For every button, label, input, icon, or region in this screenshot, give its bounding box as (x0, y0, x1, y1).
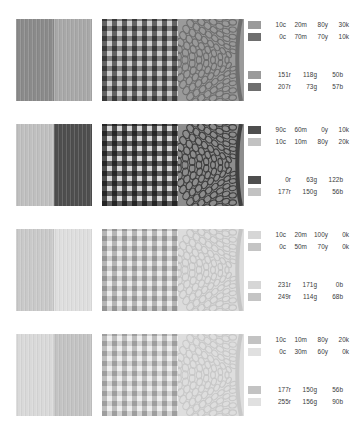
cmyk-m-value: 10m (286, 335, 307, 345)
cmyk-legend: 10c20m100y0k0c50m70y0k (248, 230, 350, 254)
color-chip[interactable] (248, 293, 261, 301)
cmyk-y-value: 0y (307, 125, 328, 135)
stripe-pattern-swatch[interactable] (16, 334, 92, 416)
swatch-sheet: 10c20m80y30k0c70m70y10k 151r118g50b207r7… (0, 0, 352, 446)
color-chip[interactable] (248, 386, 261, 394)
cmyk-y-value: 80y (307, 20, 328, 30)
cmyk-legend-line[interactable]: 10c20m80y30k (248, 20, 350, 31)
color-chip[interactable] (248, 348, 261, 356)
cmyk-legend: 90c60m0y10k10c10m80y20k (248, 125, 350, 149)
cmyk-legend-line[interactable]: 0c70m70y10k (248, 32, 350, 43)
cmyk-y-value: 70y (307, 32, 328, 42)
rgb-legend-line[interactable]: 255r156g90b (248, 397, 350, 408)
cmyk-k-value: 20k (328, 335, 349, 345)
damask-pattern-swatch[interactable] (178, 334, 244, 416)
cmyk-legend: 10c20m80y30k0c70m70y10k (248, 20, 350, 44)
stripe-left-half (16, 124, 54, 206)
cmyk-legend-line[interactable]: 0c50m70y0k (248, 242, 350, 253)
cmyk-c-value: 10c (265, 335, 286, 345)
rgb-legend-line[interactable]: 249r114g68b (248, 292, 350, 303)
color-chip[interactable] (248, 71, 261, 79)
cmyk-values: 90c60m0y10k (265, 125, 349, 135)
rgb-legend-line[interactable]: 151r118g50b (248, 70, 350, 81)
cmyk-values: 0c70m70y10k (265, 32, 349, 42)
colorway-row: 10c10m80y20k0c30m60y0k 177r150g56b255r15… (0, 329, 352, 434)
color-chip[interactable] (248, 138, 261, 146)
rgb-g-value: 156g (291, 397, 317, 407)
cmyk-y-value: 100y (307, 230, 328, 240)
damask-pattern-swatch[interactable] (178, 229, 244, 311)
cmyk-k-value: 10k (328, 125, 349, 135)
rgb-values: 177r150g56b (265, 187, 343, 197)
color-chip[interactable] (248, 281, 261, 289)
cmyk-legend-line[interactable]: 0c30m60y0k (248, 347, 350, 358)
rgb-g-value: 118g (291, 70, 317, 80)
color-chip[interactable] (248, 21, 261, 29)
rgb-values: 249r114g68b (265, 292, 343, 302)
rgb-legend-line[interactable]: 207r73g57b (248, 82, 350, 93)
color-chip[interactable] (248, 231, 261, 239)
rgb-values: 151r118g50b (265, 70, 343, 80)
color-chip[interactable] (248, 126, 261, 134)
rgb-b-value: 68b (317, 292, 343, 302)
damask-pattern-swatch[interactable] (178, 124, 244, 206)
cmyk-k-value: 0k (328, 242, 349, 252)
cmyk-y-value: 80y (307, 335, 328, 345)
color-chip[interactable] (248, 33, 261, 41)
cmyk-values: 10c10m80y20k (265, 137, 349, 147)
cmyk-y-value: 60y (307, 347, 328, 357)
cmyk-c-value: 0c (265, 242, 286, 252)
cmyk-k-value: 20k (328, 137, 349, 147)
check-pattern-swatch[interactable] (102, 19, 178, 101)
cmyk-c-value: 0c (265, 32, 286, 42)
check-pattern-swatch[interactable] (102, 124, 178, 206)
cmyk-legend: 10c10m80y20k0c30m60y0k (248, 335, 350, 359)
stripe-pattern-swatch[interactable] (16, 124, 92, 206)
stripe-pattern-swatch[interactable] (16, 19, 92, 101)
stripe-right-half (54, 124, 92, 206)
rgb-g-value: 63g (291, 175, 317, 185)
cmyk-c-value: 10c (265, 230, 286, 240)
cmyk-c-value: 0c (265, 347, 286, 357)
rgb-b-value: 90b (317, 397, 343, 407)
rgb-legend-line[interactable]: 231r171g0b (248, 280, 350, 291)
cmyk-k-value: 10k (328, 32, 349, 42)
cmyk-y-value: 70y (307, 242, 328, 252)
damask-motif (178, 229, 244, 311)
cmyk-values: 10c10m80y20k (265, 335, 349, 345)
stripe-left-half (16, 229, 54, 311)
cmyk-c-value: 10c (265, 20, 286, 30)
cmyk-legend-line[interactable]: 10c10m80y20k (248, 335, 350, 346)
check-pattern-swatch[interactable] (102, 334, 178, 416)
rgb-r-value: 249r (265, 292, 291, 302)
color-chip[interactable] (248, 336, 261, 344)
rgb-legend-line[interactable]: 0r63g122b (248, 175, 350, 186)
damask-motif (178, 124, 244, 206)
damask-pattern-swatch[interactable] (178, 19, 244, 101)
cmyk-legend-line[interactable]: 90c60m0y10k (248, 125, 350, 136)
cmyk-values: 0c30m60y0k (265, 347, 349, 357)
cmyk-legend-line[interactable]: 10c10m80y20k (248, 137, 350, 148)
color-chip[interactable] (248, 398, 261, 406)
cmyk-k-value: 0k (328, 230, 349, 240)
color-chip[interactable] (248, 176, 261, 184)
rgb-legend-line[interactable]: 177r150g56b (248, 187, 350, 198)
cmyk-k-value: 0k (328, 347, 349, 357)
rgb-legend-line[interactable]: 177r150g56b (248, 385, 350, 396)
cmyk-m-value: 30m (286, 347, 307, 357)
rgb-legend: 0r63g122b177r150g56b (248, 175, 350, 199)
rgb-r-value: 177r (265, 187, 291, 197)
cmyk-legend-line[interactable]: 10c20m100y0k (248, 230, 350, 241)
check-pattern-swatch[interactable] (102, 229, 178, 311)
rgb-values: 255r156g90b (265, 397, 343, 407)
stripe-right-half (54, 334, 92, 416)
color-chip[interactable] (248, 83, 261, 91)
rgb-b-value: 0b (317, 280, 343, 290)
color-chip[interactable] (248, 243, 261, 251)
check-grid (102, 124, 178, 206)
cmyk-c-value: 90c (265, 125, 286, 135)
stripe-left-half (16, 19, 54, 101)
color-chip[interactable] (248, 188, 261, 196)
rgb-g-value: 73g (291, 82, 317, 92)
stripe-pattern-swatch[interactable] (16, 229, 92, 311)
